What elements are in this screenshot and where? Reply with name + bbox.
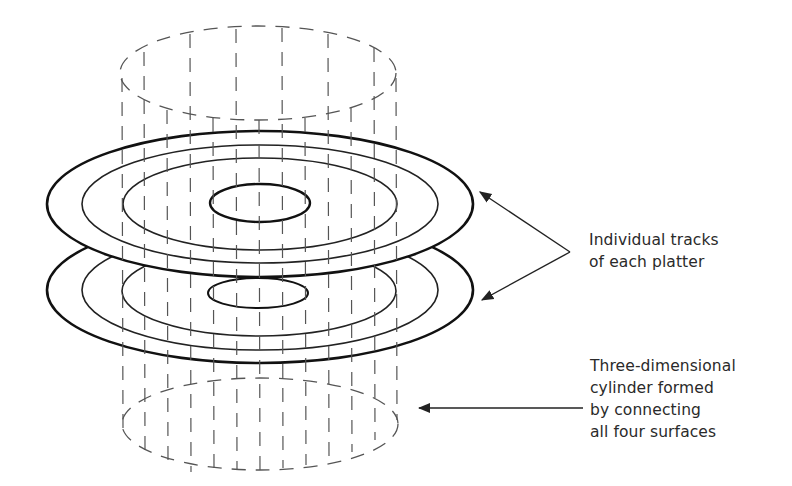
tracks-label-line-2: of each platter	[589, 251, 719, 273]
tracks-label-line-1: Individual tracks	[589, 229, 719, 251]
tracks-callout-label: Individual tracks of each platter	[589, 229, 719, 273]
arrow-to-top-platter	[480, 192, 570, 252]
cylinder-label-line-1: Three-dimensional	[590, 355, 736, 377]
tracks-callout-arrows	[480, 192, 570, 300]
cylinder-label-line-3: by connecting	[590, 399, 736, 421]
arrow-to-bottom-platter	[482, 252, 570, 300]
top-platter	[47, 131, 473, 277]
cylinder-label-line-4: all four surfaces	[590, 421, 736, 443]
cylinder-label-line-2: cylinder formed	[590, 377, 736, 399]
top-platter-outer-track	[47, 131, 473, 277]
cylinder-callout-label: Three-dimensional cylinder formed by con…	[590, 355, 736, 443]
cylinder-top-outline	[120, 26, 396, 120]
